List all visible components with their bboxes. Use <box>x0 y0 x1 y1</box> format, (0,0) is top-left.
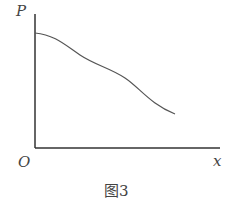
origin-label: O <box>18 153 30 171</box>
figure-caption: 图3 <box>104 179 129 200</box>
x-axis-label: x <box>213 152 221 170</box>
figure: P O x 图3 <box>0 0 240 214</box>
curve <box>35 33 175 114</box>
y-axis-label: P <box>16 2 26 20</box>
